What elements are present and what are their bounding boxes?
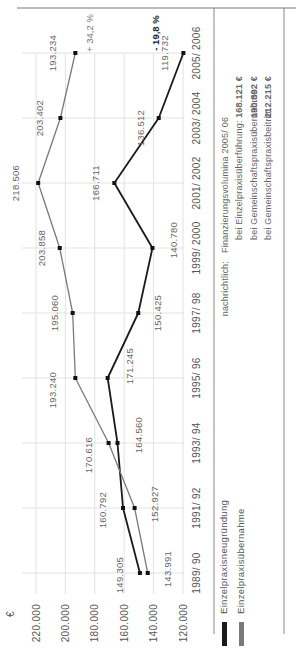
y-tick-label: 220.000 xyxy=(31,604,42,642)
data-point-marker xyxy=(150,246,154,250)
x-axis: 1989/ 901991/ 921993/ 941995/ 961997/ 98… xyxy=(191,8,214,634)
y-axis-unit: € xyxy=(5,611,16,617)
x-tick-label: 2005/ 2006 xyxy=(191,26,202,79)
x-tick-label: 2001/ 2002 xyxy=(191,156,202,209)
data-value-label: 140.780 xyxy=(168,222,179,258)
data-point-marker xyxy=(58,116,62,120)
legend-label: Einzelpraxisübernahme xyxy=(235,508,246,614)
y-tick-label: 180.000 xyxy=(89,604,100,642)
data-point-marker xyxy=(136,311,140,315)
data-value-label: 119.732 xyxy=(159,35,170,71)
legend-label: Einzelpraxisneugründung xyxy=(218,500,229,614)
data-value-label: 136.512 xyxy=(135,110,146,146)
data-value-label: 164.560 xyxy=(133,417,144,453)
data-point-marker xyxy=(71,311,75,315)
y-tick-label: 200.000 xyxy=(60,604,71,642)
data-point-marker xyxy=(73,51,77,55)
data-value-label: 166.711 xyxy=(90,165,101,201)
x-tick-label: 1995/ 96 xyxy=(191,357,202,398)
y-axis: 220.000200.000180.000160.000140.000120.0… xyxy=(5,604,189,642)
y-tick-label: 120.000 xyxy=(178,604,189,642)
data-value-label: 170.616 xyxy=(83,437,94,473)
x-tick-label: 1999/ 2000 xyxy=(191,221,202,274)
data-value-label: 143.991 xyxy=(162,551,173,587)
data-value-label: 152.927 xyxy=(149,486,160,522)
change-percent-label: + 34,2 % xyxy=(84,14,95,52)
y-tick-label: 160.000 xyxy=(119,604,130,642)
data-point-marker xyxy=(107,441,111,445)
data-value-label: 149.305 xyxy=(114,557,125,593)
data-value-label: 203.858 xyxy=(36,230,47,266)
data-point-marker xyxy=(36,181,40,185)
note-row-value: 168.121 € xyxy=(234,76,244,118)
legend-swatch xyxy=(239,622,244,646)
data-value-label: 195.060 xyxy=(49,295,60,331)
data-value-label: 160.792 xyxy=(97,492,108,528)
data-point-marker xyxy=(133,506,137,510)
data-value-label: 171.245 xyxy=(124,348,135,384)
data-value-label: 193.234 xyxy=(47,35,58,71)
x-tick-label: 1997/ 98 xyxy=(191,292,202,333)
line-chart: 220.000200.000180.000160.000140.000120.0… xyxy=(0,0,296,654)
data-point-marker xyxy=(112,181,116,185)
note-title: Finanzierungsvolumina 2005/ 06 xyxy=(220,117,230,253)
data-value-label: 218.506 xyxy=(10,165,21,201)
note-row-value: 190.892 € xyxy=(249,76,259,118)
change-percent-label: - 19,8 % xyxy=(150,15,161,51)
data-point-marker xyxy=(73,376,77,380)
note-row-label: bei Einzelpraxisüberführung: xyxy=(234,120,244,240)
data-point-marker xyxy=(157,116,161,120)
data-point-marker xyxy=(138,571,142,575)
x-tick-label: 2003/ 2004 xyxy=(191,91,202,144)
x-tick-label: 1991/ 92 xyxy=(191,487,202,528)
data-value-label: 203.402 xyxy=(34,100,45,136)
note-row-value: 212.215 € xyxy=(263,76,273,118)
data-value-label: 193.240 xyxy=(47,372,58,408)
rotated-chart-stage: 220.000200.000180.000160.000140.000120.0… xyxy=(0,0,296,654)
data-point-marker xyxy=(106,376,110,380)
x-tick-label: 1989/ 90 xyxy=(191,552,202,593)
data-value-label: 150.425 xyxy=(152,295,163,331)
data-point-marker xyxy=(58,246,62,250)
data-point-marker xyxy=(121,506,125,510)
note-row-label: bei Gemeinschaftspraxisbeitritt: xyxy=(263,108,273,240)
y-tick-label: 140.000 xyxy=(148,604,159,642)
legend-swatch xyxy=(222,622,227,646)
data-point-marker xyxy=(115,441,119,445)
note-prefix: nachrichtlich: xyxy=(220,261,230,316)
x-tick-label: 1993/ 94 xyxy=(191,422,202,463)
data-point-marker xyxy=(181,51,185,55)
data-point-marker xyxy=(146,571,150,575)
financing-note: nachrichtlich:Finanzierungsvolumina 2005… xyxy=(220,8,284,634)
legend: EinzelpraxisneugründungEinzelpraxisübern… xyxy=(218,500,246,646)
